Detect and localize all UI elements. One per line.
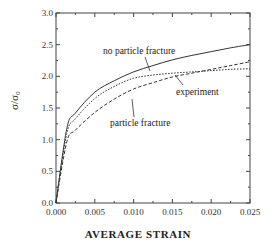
- annotation-no-particle-fracture: no particle fracture: [103, 46, 175, 56]
- y-tick-label: 3.0: [42, 8, 54, 18]
- axis-ticks: 0.0000.0050.0100.0150.0200.0250.00.51.01…: [42, 8, 261, 217]
- annotation-experiment: experiment: [176, 87, 219, 97]
- x-tick-label: 0.025: [240, 207, 261, 217]
- y-tick-label: 0.0: [42, 198, 54, 208]
- curve-particle-fracture: [56, 62, 250, 203]
- y-tick-label: 2.5: [42, 40, 54, 50]
- x-tick-label: 0.010: [123, 207, 144, 217]
- y-tick-label: 0.5: [42, 166, 54, 176]
- y-tick-label: 2.0: [42, 71, 54, 81]
- annotation-particle-fracture: particle fracture: [110, 118, 170, 128]
- chart: 0.0000.0050.0100.0150.0200.0250.00.51.01…: [0, 0, 276, 245]
- x-axis-label: AVERAGE STRAIN: [0, 228, 276, 240]
- y-tick-label: 1.5: [42, 103, 54, 113]
- y-axis-label: σ/σ₀: [8, 91, 20, 110]
- x-tick-label: 0.020: [201, 207, 222, 217]
- x-tick-label: 0.000: [46, 207, 67, 217]
- curve-experiment: [56, 69, 250, 203]
- x-tick-label: 0.005: [85, 207, 106, 217]
- y-tick-label: 1.0: [42, 135, 54, 145]
- annotations: no particle fractureexperimentparticle f…: [103, 46, 219, 128]
- x-tick-label: 0.015: [162, 207, 183, 217]
